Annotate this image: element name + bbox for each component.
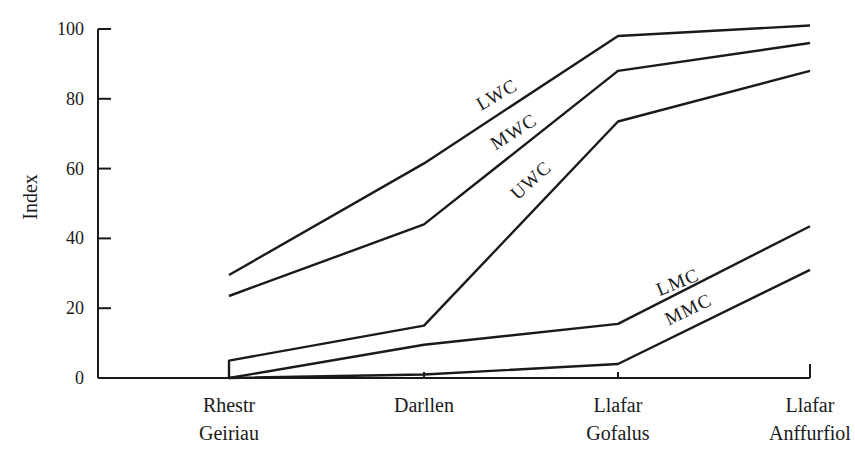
x-axis: RhestrGeiriauDarllenLlafarGofalusLlafarA… (98, 364, 851, 444)
y-tick-label: 100 (57, 19, 84, 39)
y-tick-label: 40 (66, 228, 84, 248)
series-labels: LWCMWCUWCLMCMMC (473, 74, 715, 329)
y-tick-label: 80 (66, 89, 84, 109)
x-category-label: Rhestr (203, 394, 256, 416)
x-category-label: Llafar (786, 394, 835, 416)
series-label-lwc: LWC (473, 74, 521, 114)
y-tick-label: 60 (66, 159, 84, 179)
x-category-label: Llafar (594, 394, 643, 416)
x-category-label: Geiriau (199, 422, 259, 444)
x-category-label: Gofalus (586, 422, 650, 444)
series-line-mmc (229, 270, 810, 378)
y-axis: 020406080100 Index (19, 19, 111, 388)
x-category-label: Darllen (394, 394, 454, 416)
series-line-lmc (229, 226, 810, 378)
line-chart: 020406080100 Index RhestrGeiriauDarllenL… (0, 0, 855, 461)
x-category-label: Anffurfiol (769, 422, 851, 444)
y-tick-label: 0 (75, 368, 84, 388)
y-tick-label: 20 (66, 298, 84, 318)
y-axis-label: Index (19, 174, 41, 220)
series-line-mwc (229, 43, 810, 296)
